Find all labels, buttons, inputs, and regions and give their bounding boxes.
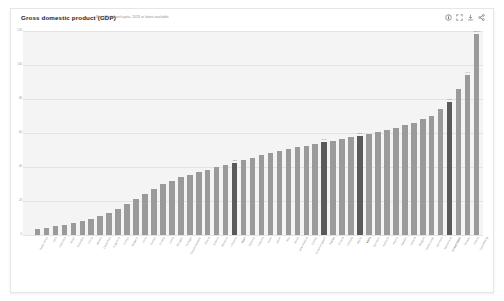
bar[interactable]	[223, 165, 229, 235]
bar-value-label: 54.5	[322, 138, 327, 141]
share-icon[interactable]	[478, 14, 485, 21]
x-axis-tick-label: Chile	[143, 237, 148, 244]
bar[interactable]	[321, 142, 327, 235]
x-axis-tick-label: Luxembourg	[479, 237, 488, 251]
plot-area: 020406080100120 42.554.558.578.094.0118.…	[23, 31, 483, 235]
bar[interactable]	[214, 167, 220, 235]
bar[interactable]	[268, 153, 274, 235]
bar[interactable]	[259, 155, 265, 235]
x-axis-tick-label: Malta	[367, 237, 372, 244]
bar[interactable]	[348, 137, 354, 235]
x-axis-tick-label: Spain	[241, 237, 247, 244]
bar[interactable]	[232, 163, 238, 235]
x-axis-tick-label: Australia	[383, 237, 390, 248]
bar[interactable]	[420, 119, 426, 235]
x-axis-tick-label: Croatia	[160, 237, 166, 246]
y-axis-tick-label: 20	[12, 199, 22, 202]
bar[interactable]	[71, 223, 77, 235]
bar[interactable]	[97, 216, 103, 235]
x-axis-tick-label: Brazil	[71, 237, 77, 244]
bar[interactable]	[330, 141, 336, 235]
bar[interactable]	[196, 172, 202, 235]
bar[interactable]	[241, 160, 247, 235]
info-icon[interactable]	[445, 14, 452, 21]
expand-icon[interactable]	[456, 14, 463, 21]
bar[interactable]	[465, 75, 471, 235]
bar[interactable]	[277, 151, 283, 235]
download-icon[interactable]	[467, 14, 474, 21]
x-axis-tick-label: Denmark	[437, 237, 445, 248]
bar-value-label: 42.5	[232, 159, 237, 162]
x-axis-tick-label: Greece	[151, 237, 158, 246]
bar[interactable]	[142, 194, 148, 235]
bar[interactable]	[178, 177, 184, 235]
bar[interactable]	[250, 158, 256, 235]
x-axis-tick-label: Costa Rica	[104, 237, 113, 250]
bar[interactable]	[169, 181, 175, 235]
bar[interactable]	[402, 125, 408, 235]
x-axis-tick-label: Canada	[348, 237, 355, 247]
bar[interactable]	[295, 147, 301, 235]
bar-series: 42.554.558.578.094.0118.0	[33, 31, 481, 235]
bar[interactable]	[44, 228, 50, 235]
bar[interactable]	[456, 89, 462, 235]
bar[interactable]	[151, 189, 157, 235]
y-axis-tick-label: 60	[12, 131, 22, 134]
bar[interactable]	[106, 213, 112, 235]
x-axis-labels: South AfricaIndiaIndonesiaBrazilColombia…	[33, 237, 483, 293]
bar-value-label: 94.0	[465, 71, 470, 74]
bar[interactable]	[474, 34, 480, 235]
bar[interactable]	[160, 184, 166, 235]
bar[interactable]	[88, 219, 94, 235]
bar[interactable]	[304, 146, 310, 235]
bar[interactable]	[115, 209, 121, 235]
x-axis-tick-label: Japan	[277, 237, 283, 245]
x-axis-tick-label: Poland	[205, 237, 211, 246]
x-axis-tick-label: Colombia	[78, 237, 86, 248]
y-axis-tick-label: 40	[12, 165, 22, 168]
bar[interactable]	[375, 132, 381, 235]
x-axis-tick-label: Norway	[464, 237, 471, 246]
bar[interactable]	[205, 170, 211, 235]
y-axis-tick-label: 80	[12, 97, 22, 100]
x-axis-tick-label: New Zealand	[300, 237, 310, 252]
x-axis-tick-label: Czechia	[258, 237, 265, 247]
y-axis-tick-label: 100	[12, 63, 22, 66]
x-axis-tick-label: Lithuania	[230, 237, 238, 248]
bar[interactable]	[393, 128, 399, 235]
x-axis-tick-label: Cyprus	[312, 237, 318, 246]
bar-value-label: 58.5	[358, 132, 363, 135]
bar-value-label: 118.0	[474, 30, 480, 33]
x-axis-tick-label: Indonesia	[60, 237, 68, 249]
bar[interactable]	[53, 226, 59, 235]
x-axis-tick-label: United Kingdom	[316, 237, 327, 255]
x-axis-tick-label: United States	[452, 237, 462, 253]
bar[interactable]	[384, 130, 390, 235]
chart-card: Gross domestic product (GDP) Mio. US dol…	[10, 8, 494, 293]
x-axis-tick-label: Portugal	[186, 237, 193, 247]
bar[interactable]	[80, 221, 86, 235]
bar[interactable]	[366, 134, 372, 235]
x-axis-tick-label: OECD	[357, 237, 363, 245]
bar[interactable]	[286, 149, 292, 235]
x-axis-tick-label: Finland	[339, 237, 346, 246]
chart-header: Gross domestic product (GDP) Mio. US dol…	[11, 9, 493, 27]
x-axis-tick-label: Ireland	[474, 237, 480, 246]
bar[interactable]	[339, 139, 345, 235]
bar[interactable]	[124, 204, 130, 235]
bar[interactable]	[447, 102, 453, 235]
x-axis-tick-label: Türkiye	[124, 237, 131, 246]
bar[interactable]	[35, 229, 41, 235]
x-axis-tick-label: India	[54, 237, 59, 243]
x-axis-tick-label: Sweden	[401, 237, 408, 247]
bar[interactable]	[133, 199, 139, 235]
x-axis-tick-label: Latvia	[170, 237, 176, 245]
bar[interactable]	[429, 116, 435, 235]
bar[interactable]	[62, 225, 68, 235]
bar[interactable]	[312, 144, 318, 235]
bar[interactable]	[357, 136, 363, 235]
x-axis-tick-label: Korea	[295, 237, 301, 245]
bar[interactable]	[411, 123, 417, 235]
bar[interactable]	[187, 175, 193, 235]
bar[interactable]	[438, 109, 444, 235]
